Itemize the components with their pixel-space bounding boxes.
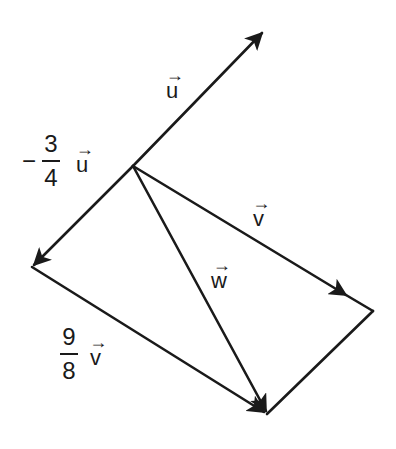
vector-u (133, 33, 262, 166)
fraction-bar (60, 353, 78, 355)
denominator: 4 (44, 166, 57, 190)
label-u: →u (166, 80, 178, 102)
label-neg-three-quarter-u: − 3 4 →u (22, 132, 88, 190)
vector-arrow-icon: → (252, 196, 270, 210)
denominator: 8 (62, 359, 75, 383)
vector-v (133, 166, 346, 295)
label-nine-eighths-v: 9 8 →v (60, 325, 101, 383)
label-w: →w (211, 270, 227, 292)
vector-arrow-icon: → (213, 258, 231, 272)
vector-arrow-icon: → (76, 142, 94, 156)
vector-v-extension (346, 295, 373, 311)
label-v: →v (253, 208, 264, 230)
vector-w (133, 166, 266, 411)
fraction-bar (42, 160, 60, 162)
minus-sign: − (22, 147, 36, 175)
numerator: 3 (44, 132, 57, 156)
vector-arrow-icon: → (166, 68, 184, 82)
fraction-nine-eighths: 9 8 (60, 325, 78, 383)
fraction-three-quarters: 3 4 (42, 132, 60, 190)
numerator: 9 (62, 325, 75, 349)
closing-segment (267, 311, 373, 414)
vector-arrow-icon: → (89, 335, 107, 349)
